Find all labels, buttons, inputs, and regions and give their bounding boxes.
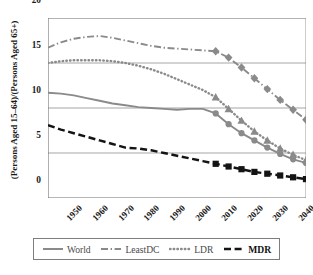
x-tick-label: 1990: [167, 203, 187, 223]
x-tick-label: 2030: [271, 203, 291, 223]
figure-support-ratio-chart: (Persons Aged 15–64)/(Persons Aged 65+) …: [0, 0, 313, 275]
legend-swatch: [100, 245, 122, 253]
y-tick-label: 10: [32, 85, 41, 95]
chart-legend: WorldLeastDCLDRMDR: [33, 238, 280, 260]
y-axis-tick-labels: 0 5 10 15 20: [0, 0, 46, 180]
legend-label: MDR: [248, 244, 271, 255]
legend-item-ldr[interactable]: LDR: [169, 244, 213, 255]
x-tick-label: 2020: [245, 203, 265, 223]
y-tick-label: 0: [36, 175, 41, 185]
legend-item-mdr[interactable]: MDR: [223, 244, 271, 255]
plot-area: [48, 18, 306, 198]
x-tick-label: 2040: [296, 203, 313, 223]
legend-swatch: [223, 245, 245, 253]
legend-label: World: [67, 244, 91, 255]
y-tick-label: 5: [36, 130, 41, 140]
x-tick-label: 1980: [142, 203, 162, 223]
x-tick-label: 2000: [193, 203, 213, 223]
x-tick-label: 1970: [116, 203, 136, 223]
figure-caption: [2, 266, 302, 275]
legend-swatch: [42, 245, 64, 253]
x-axis-tick-labels: 1950196019701980199020002010202020302040…: [48, 200, 306, 240]
y-tick-label: 15: [32, 40, 41, 50]
legend-label: LeastDC: [125, 244, 159, 255]
x-tick-label: 2010: [219, 203, 239, 223]
chart-canvas: [48, 18, 306, 198]
legend-label: LDR: [194, 244, 213, 255]
legend-swatch: [169, 245, 191, 253]
y-tick-label: 20: [32, 0, 41, 5]
legend-item-leastdc[interactable]: LeastDC: [100, 244, 159, 255]
legend-item-world[interactable]: World: [42, 244, 91, 255]
x-tick-label: 1950: [64, 203, 84, 223]
x-tick-label: 1960: [90, 203, 110, 223]
